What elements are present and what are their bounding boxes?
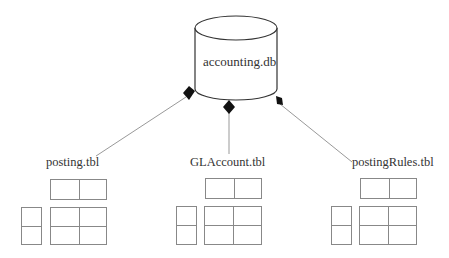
table-label-posting: posting.tbl: [46, 155, 99, 170]
table-icon-header-glaccount: [205, 178, 262, 199]
table-icon-index-posting: [21, 207, 42, 245]
database-label: accounting.db: [203, 54, 276, 70]
table-icon-index-postingrules: [331, 206, 352, 245]
table-icon-grid-postingrules: [359, 206, 417, 245]
connector-line-posting: [96, 97, 186, 156]
table-label-postingrules: postingRules.tbl: [352, 155, 434, 170]
table-icon-header-postingrules: [360, 178, 417, 199]
diamond-connector-icon-right: [276, 96, 283, 105]
table-icon-grid-glaccount: [204, 206, 262, 245]
table-icon-index-glaccount: [176, 206, 197, 245]
table-icon-header-posting: [50, 179, 107, 200]
table-icon-grid-posting: [50, 207, 107, 245]
table-label-glaccount: GLAccount.tbl: [190, 155, 265, 170]
diamond-connector-icon-center: [223, 100, 235, 114]
connector-line-postingrules: [280, 104, 352, 162]
